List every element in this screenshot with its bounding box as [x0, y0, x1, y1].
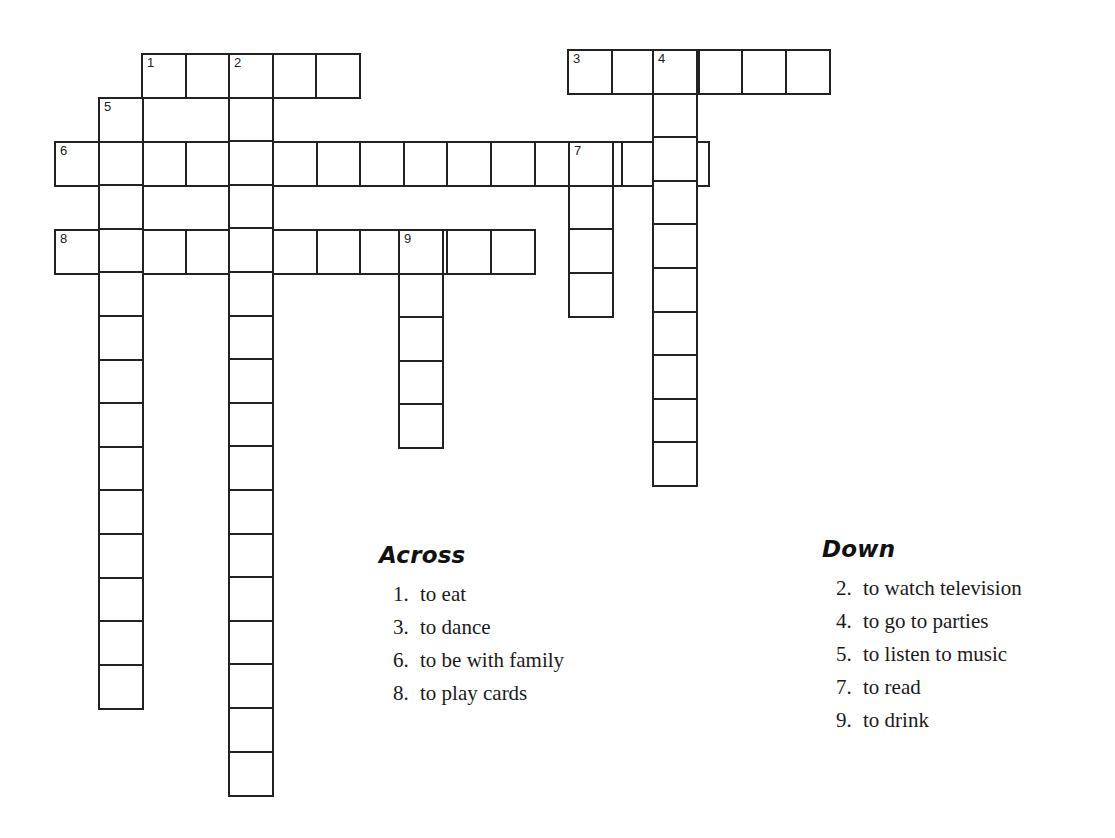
grid-cell-1-across-2[interactable] [185, 53, 231, 99]
grid-cell-6-across-9[interactable] [403, 141, 449, 187]
grid-cell-8-across-3[interactable] [141, 229, 187, 275]
grid-cell-3-across-1[interactable]: 3 [567, 49, 613, 95]
across-heading: Across [379, 542, 564, 568]
grid-cell-2-down-17[interactable] [228, 751, 274, 797]
grid-cell-3-across-4[interactable] [698, 49, 744, 95]
grid-cell-2-down-10[interactable] [228, 445, 274, 491]
grid-cell-5-down-10[interactable] [98, 489, 144, 535]
grid-cell-8-across-11[interactable] [490, 229, 536, 275]
grid-cell-2-down-3[interactable] [228, 140, 274, 186]
clue-text: to dance [420, 615, 491, 639]
grid-cell-9-down-1[interactable]: 9 [398, 229, 444, 275]
grid-cell-1-across-1[interactable]: 1 [141, 53, 187, 99]
grid-cell-9-down-3[interactable] [398, 316, 444, 362]
grid-cell-5-down-14[interactable] [98, 664, 144, 710]
clue-text: to eat [420, 582, 466, 606]
across-clues-section: Across 1.to eat 3.to dance 6.to be with … [379, 542, 564, 710]
grid-cell-4-down-1[interactable]: 4 [652, 49, 698, 95]
grid-cell-1-across-4[interactable] [272, 53, 318, 99]
clue-down-9: 9.to drink [836, 704, 1022, 737]
grid-cell-4-down-6[interactable] [652, 267, 698, 313]
cell-number: 8 [60, 232, 67, 246]
clue-number: 6. [393, 644, 420, 677]
down-heading: Down [822, 536, 1022, 562]
grid-cell-2-down-9[interactable] [228, 402, 274, 448]
grid-cell-2-down-11[interactable] [228, 489, 274, 535]
grid-cell-5-down-1[interactable]: 5 [98, 97, 144, 143]
grid-cell-8-across-4[interactable] [185, 229, 231, 275]
grid-cell-5-down-8[interactable] [98, 402, 144, 448]
grid-cell-4-down-2[interactable] [652, 93, 698, 139]
grid-cell-4-down-10[interactable] [652, 441, 698, 487]
clue-down-7: 7.to read [836, 671, 1022, 704]
grid-cell-8-across-10[interactable] [446, 229, 492, 275]
grid-cell-7-down-2[interactable] [568, 185, 614, 231]
grid-cell-8-across-1[interactable]: 8 [54, 229, 100, 275]
grid-cell-5-down-5[interactable] [98, 271, 144, 317]
grid-cell-5-down-11[interactable] [98, 533, 144, 579]
grid-cell-8-across-6[interactable] [272, 229, 318, 275]
grid-cell-6-across-8[interactable] [359, 141, 405, 187]
clue-down-5: 5.to listen to music [836, 638, 1022, 671]
grid-cell-4-down-5[interactable] [652, 223, 698, 269]
clue-number: 3. [393, 611, 420, 644]
cell-number: 4 [658, 52, 665, 66]
cell-number: 6 [60, 144, 67, 158]
cell-number: 9 [404, 232, 411, 246]
clue-across-1: 1.to eat [393, 578, 564, 611]
clue-across-3: 3.to dance [393, 611, 564, 644]
clue-down-2: 2.to watch television [836, 572, 1022, 605]
clue-number: 7. [836, 671, 863, 704]
grid-cell-6-across-10[interactable] [446, 141, 492, 187]
grid-cell-2-down-4[interactable] [228, 184, 274, 230]
grid-cell-5-down-13[interactable] [98, 620, 144, 666]
grid-cell-5-down-4[interactable] [98, 228, 144, 274]
grid-cell-2-down-12[interactable] [228, 533, 274, 579]
grid-cell-2-down-13[interactable] [228, 576, 274, 622]
grid-cell-6-across-4[interactable] [185, 141, 231, 187]
grid-cell-6-across-11[interactable] [490, 141, 536, 187]
grid-cell-2-down-2[interactable] [228, 97, 274, 143]
grid-cell-7-down-3[interactable] [568, 228, 614, 274]
grid-cell-5-down-7[interactable] [98, 359, 144, 405]
grid-cell-3-across-5[interactable] [741, 49, 787, 95]
grid-cell-8-across-7[interactable] [316, 229, 362, 275]
grid-cell-4-down-3[interactable] [652, 136, 698, 182]
grid-cell-7-down-1[interactable]: 7 [568, 141, 614, 187]
grid-cell-6-across-3[interactable] [141, 141, 187, 187]
grid-cell-6-across-6[interactable] [272, 141, 318, 187]
grid-cell-2-down-15[interactable] [228, 663, 274, 709]
grid-cell-5-down-9[interactable] [98, 446, 144, 492]
clue-text: to drink [863, 708, 929, 732]
grid-cell-4-down-8[interactable] [652, 354, 698, 400]
grid-cell-5-down-6[interactable] [98, 315, 144, 361]
grid-cell-6-across-1[interactable]: 6 [54, 141, 100, 187]
grid-cell-2-down-6[interactable] [228, 271, 274, 317]
grid-cell-5-down-12[interactable] [98, 577, 144, 623]
cell-number: 7 [574, 144, 581, 158]
grid-cell-2-down-16[interactable] [228, 707, 274, 753]
clue-text: to watch television [863, 576, 1022, 600]
grid-cell-5-down-3[interactable] [98, 184, 144, 230]
grid-cell-4-down-4[interactable] [652, 180, 698, 226]
grid-cell-6-across-7[interactable] [316, 141, 362, 187]
grid-cell-2-down-1[interactable]: 2 [228, 53, 274, 99]
grid-cell-9-down-4[interactable] [398, 360, 444, 406]
clue-across-8: 8.to play cards [393, 677, 564, 710]
grid-cell-9-down-2[interactable] [398, 273, 444, 319]
grid-cell-5-down-2[interactable] [98, 141, 144, 187]
grid-cell-3-across-2[interactable] [611, 49, 657, 95]
grid-cell-1-across-5[interactable] [315, 53, 361, 99]
grid-cell-2-down-7[interactable] [228, 315, 274, 361]
grid-cell-4-down-9[interactable] [652, 398, 698, 444]
grid-cell-9-down-5[interactable] [398, 403, 444, 449]
clue-number: 5. [836, 638, 863, 671]
grid-cell-2-down-14[interactable] [228, 620, 274, 666]
clue-text: to play cards [420, 681, 527, 705]
grid-cell-2-down-5[interactable] [228, 227, 274, 273]
cell-number: 5 [104, 100, 111, 114]
grid-cell-7-down-4[interactable] [568, 272, 614, 318]
grid-cell-3-across-6[interactable] [785, 49, 831, 95]
grid-cell-4-down-7[interactable] [652, 311, 698, 357]
grid-cell-2-down-8[interactable] [228, 358, 274, 404]
